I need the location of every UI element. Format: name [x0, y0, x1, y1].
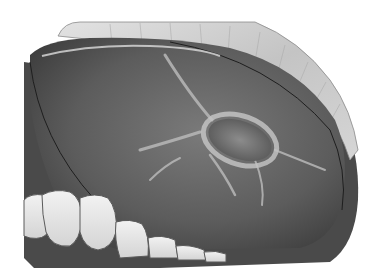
tooth-5 — [148, 236, 178, 258]
tooth-7 — [204, 251, 226, 262]
illustration-stage: Grayscale medical illustration of an ora… — [0, 0, 368, 271]
oral-cavity-illustration — [0, 0, 368, 271]
tooth-3 — [80, 195, 116, 250]
tooth-4 — [116, 220, 149, 258]
